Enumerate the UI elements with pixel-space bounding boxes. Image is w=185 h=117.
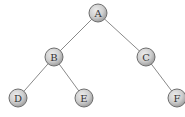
node-label: A xyxy=(93,8,102,19)
tree-node-d: D xyxy=(9,89,27,107)
node-label: C xyxy=(142,52,150,63)
tree-node-f: F xyxy=(168,89,185,107)
edge-a-c xyxy=(98,13,146,57)
node-label: B xyxy=(50,52,57,63)
tree-node-e: E xyxy=(75,89,93,107)
node-label: D xyxy=(14,93,22,104)
node-label: E xyxy=(80,93,87,104)
tree-diagram: ABCDEF xyxy=(0,0,185,117)
tree-node-b: B xyxy=(45,48,63,66)
tree-node-a: A xyxy=(89,4,107,22)
tree-node-c: C xyxy=(137,48,155,66)
node-label: F xyxy=(174,93,181,104)
tree-nodes: ABCDEF xyxy=(9,4,185,107)
